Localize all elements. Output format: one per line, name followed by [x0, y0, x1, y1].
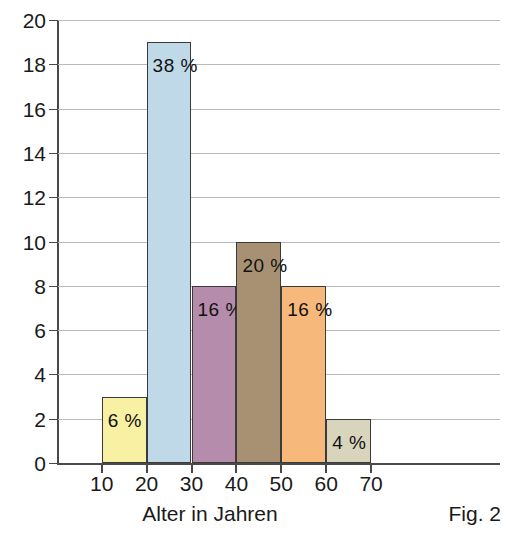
y-axis-tick	[49, 109, 58, 110]
y-axis-labels: 02468101214161820	[0, 0, 46, 544]
x-axis-tick-label: 20	[127, 473, 167, 495]
y-axis-tick-label: 4	[2, 364, 46, 385]
y-axis-tick-label: 8	[2, 276, 46, 297]
y-axis-tick	[49, 286, 58, 287]
y-axis-tick-label: 14	[2, 143, 46, 164]
bar-value-label: 20 %	[242, 256, 287, 275]
gridline	[57, 153, 500, 154]
x-axis-tick-label: 30	[172, 473, 212, 495]
y-axis-tick	[49, 197, 58, 198]
x-axis-tick-label: 70	[351, 473, 391, 495]
y-axis-tick	[49, 242, 58, 243]
bar-chart-figure: 02468101214161820 6 %38 %16 %20 %16 %4 %…	[0, 0, 509, 544]
bar-value-label: 16 %	[287, 300, 332, 319]
gridline	[57, 109, 500, 110]
bar-value-label: 6 %	[108, 411, 142, 430]
figure-caption: Fig. 2	[448, 502, 501, 526]
x-axis-tick-label: 10	[82, 473, 122, 495]
plot-area: 6 %38 %16 %20 %16 %4 %	[57, 20, 500, 463]
y-axis-tick-label: 20	[2, 10, 46, 31]
y-axis-tick	[49, 463, 58, 464]
y-axis-tick-label: 2	[2, 409, 46, 430]
x-axis-baseline	[57, 463, 500, 465]
y-axis-tick	[49, 20, 58, 21]
y-axis-tick	[49, 153, 58, 154]
y-axis-tick-label: 18	[2, 54, 46, 75]
gridline	[57, 197, 500, 198]
bar-value-label: 38 %	[153, 56, 198, 75]
y-axis-tick-label: 6	[2, 320, 46, 341]
y-axis-tick-label: 0	[2, 453, 46, 474]
x-axis-title: Alter in Jahren	[0, 502, 420, 526]
y-axis-tick	[49, 419, 58, 420]
y-axis-tick-label: 12	[2, 187, 46, 208]
gridline	[57, 20, 500, 21]
x-axis-tick-label: 50	[261, 473, 301, 495]
y-axis-tick-label: 10	[2, 232, 46, 253]
gridline	[57, 64, 500, 65]
x-axis-tick-label: 40	[216, 473, 256, 495]
y-axis-tick	[49, 330, 58, 331]
x-axis-tick-label: 60	[306, 473, 346, 495]
y-axis-tick-label: 16	[2, 99, 46, 120]
bar-20-30	[147, 42, 192, 463]
bar-value-label: 4 %	[332, 433, 366, 452]
y-axis-tick	[49, 374, 58, 375]
y-axis-tick	[49, 64, 58, 65]
